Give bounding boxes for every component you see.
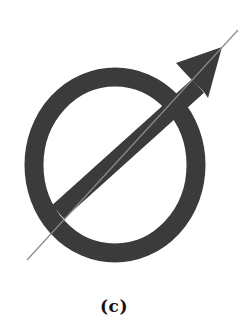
- diagram-canvas: [0, 0, 243, 335]
- arrow-shaft: [58, 86, 198, 212]
- figure-caption: (c): [0, 296, 228, 316]
- diagram-figure: (c): [0, 0, 243, 335]
- guide-line: [27, 30, 238, 260]
